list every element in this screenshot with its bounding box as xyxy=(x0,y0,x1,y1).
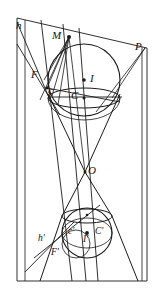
dandelin-spheres-figure: h M P F I c C O c' C' I' h' F' xyxy=(0,0,158,292)
cone-generator-left xyxy=(48,94,85,172)
label-P: P xyxy=(135,41,142,52)
point-O-marker xyxy=(84,171,87,174)
label-I-prime: I' xyxy=(83,235,88,245)
label-I: I xyxy=(90,73,94,84)
point-M-marker xyxy=(67,35,71,39)
ray-M-to-O xyxy=(69,37,85,172)
tangent-P-to-tangency xyxy=(112,48,145,98)
secant-through-F-prime xyxy=(34,205,100,258)
label-c-prime: c' xyxy=(68,227,74,237)
label-h: h xyxy=(16,20,22,31)
apex-ray-bundle xyxy=(40,37,85,172)
label-C-prime: C' xyxy=(95,227,103,237)
label-F: F xyxy=(31,69,38,80)
tangent-lines-from-P-corner xyxy=(96,48,145,112)
point-I-marker xyxy=(82,78,86,82)
generatrix-left-short-2 xyxy=(17,44,60,115)
tangent-P-to-sphere xyxy=(96,48,145,112)
generatrix-3 xyxy=(79,28,98,281)
label-h-prime: h' xyxy=(38,234,45,244)
label-M: M xyxy=(52,30,61,41)
label-F-prime: F' xyxy=(51,248,59,258)
label-c: c xyxy=(48,85,53,96)
generatrix-left-short xyxy=(17,22,50,100)
point-C-marker xyxy=(83,97,86,100)
cone-generator-extend-right xyxy=(112,216,138,281)
label-O: O xyxy=(88,165,96,176)
label-C: C xyxy=(71,90,78,101)
cone-generator-right xyxy=(85,94,120,172)
point-C-prime-marker xyxy=(86,214,89,217)
conic-section-line xyxy=(25,88,122,272)
